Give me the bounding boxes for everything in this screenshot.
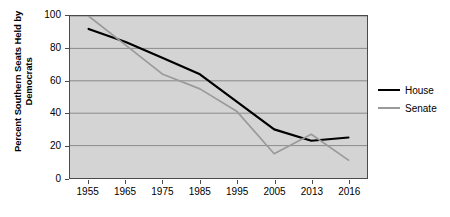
x-axis-tick-mark (349, 180, 350, 184)
x-axis-tick-mark (275, 180, 276, 184)
legend-item-senate[interactable]: Senate (378, 99, 450, 117)
y-axis-tick-label: 40 (33, 108, 61, 118)
plot-canvas (70, 16, 367, 178)
legend-swatch-senate-icon (378, 107, 400, 109)
y-axis-tick-label: 60 (33, 76, 61, 86)
y-axis-tick-label: 20 (33, 141, 61, 151)
x-axis-tick-mark (162, 180, 163, 184)
y-axis-tick-label: 100 (33, 10, 61, 20)
x-axis-tick-mark (125, 180, 126, 184)
legend-swatch-house-icon (378, 89, 400, 91)
x-axis-tick-mark (312, 180, 313, 184)
plot-area (69, 15, 368, 179)
x-axis-tick-label: 2016 (326, 186, 372, 197)
y-axis-tick-label: 0 (33, 174, 61, 184)
legend-label-senate: Senate (405, 103, 437, 114)
line-chart: Percent Southern Seats Held by Democrats… (0, 0, 450, 217)
legend-item-house[interactable]: House (378, 81, 450, 99)
x-axis-tick-mark (237, 180, 238, 184)
y-axis-tick-mark (65, 179, 69, 180)
data-series-group (89, 16, 349, 160)
chart-legend: House Senate (378, 81, 450, 117)
y-axis-title: Percent Southern Seats Held by Democrats (0, 0, 46, 190)
y-axis-title-line-1: Percent Southern Seats Held by (12, 11, 24, 152)
legend-label-house: House (405, 85, 434, 96)
y-axis-tick-label: 80 (33, 43, 61, 53)
x-axis-tick-mark (200, 180, 201, 184)
x-axis-tick-mark (88, 180, 89, 184)
